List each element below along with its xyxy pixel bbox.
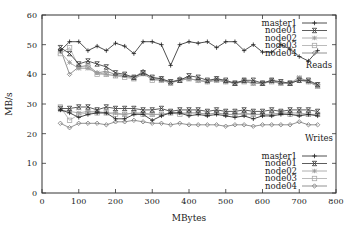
plus-marker [312, 154, 316, 158]
plus-marker [196, 41, 200, 45]
x-tick-label: 500 [218, 197, 233, 206]
star-marker [77, 66, 81, 70]
x-tick-label: 700 [292, 197, 307, 206]
y-tick-label: 30 [27, 100, 37, 109]
x-tick-label: 200 [108, 197, 123, 206]
plus-marker [251, 117, 255, 121]
x-marker [86, 59, 90, 63]
x-tick-label: 600 [255, 197, 270, 206]
star-marker [312, 169, 316, 173]
y-tick-label: 20 [27, 130, 37, 139]
plus-marker [122, 117, 126, 121]
x-marker [104, 65, 108, 69]
plus-marker [168, 63, 172, 67]
plus-marker [214, 45, 218, 49]
y-tick-label: 50 [27, 41, 37, 50]
y-tick-label: 10 [27, 159, 37, 168]
x-marker [95, 62, 99, 66]
x-tick-label: 300 [145, 197, 160, 206]
chart-svg: 01002003004005006007008000102030405060 m… [0, 0, 357, 227]
plus-marker [95, 44, 99, 48]
y-tick-label: 0 [32, 189, 37, 198]
plus-marker [178, 42, 182, 46]
plus-marker [159, 42, 163, 46]
y-axis-label: MB/s [4, 92, 14, 116]
star-marker [150, 112, 154, 116]
series-writes-node04 [58, 118, 320, 130]
legends: master1node01node02node03node04master1no… [262, 18, 333, 191]
y-tick-label: 60 [27, 11, 37, 20]
plus-marker [205, 40, 209, 44]
plus-marker [113, 117, 117, 121]
plus-marker [187, 40, 191, 44]
x-axis-label: MBytes [172, 213, 207, 223]
star-marker [86, 66, 90, 70]
y-tick-label: 40 [27, 70, 37, 79]
writes-annotation: Writes [305, 133, 333, 143]
x-tick-label: 800 [328, 197, 343, 206]
x-marker [67, 51, 71, 55]
star-marker [312, 36, 316, 40]
legend-label-node04: node04 [265, 48, 297, 58]
star-marker [77, 111, 81, 115]
x-tick-label: 400 [181, 197, 196, 206]
star-marker [113, 111, 117, 115]
x-tick-label: 100 [71, 197, 86, 206]
legend-writes: master1node01node02node03node04 [262, 151, 327, 191]
x-tick-label: 0 [39, 197, 44, 206]
throughput-chart: 01002003004005006007008000102030405060 m… [0, 0, 357, 227]
legend-label-node04: node04 [265, 181, 297, 191]
star-marker [95, 71, 99, 75]
star-marker [122, 112, 126, 116]
diamond-marker [58, 121, 62, 125]
reads-annotation: Reads [306, 60, 332, 70]
plus-marker [224, 40, 228, 44]
star-marker [67, 60, 71, 64]
star-marker [104, 72, 108, 76]
plus-marker [312, 21, 316, 25]
plus-marker [150, 118, 154, 122]
plus-marker [150, 40, 154, 44]
